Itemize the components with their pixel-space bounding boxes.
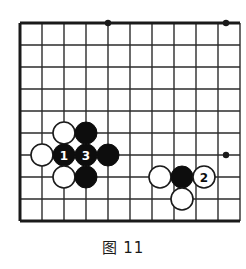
white-stone-5 [171, 188, 193, 210]
black-stone-4 [171, 166, 193, 188]
white-move-2: 2 [193, 166, 215, 188]
white-stone-disc [53, 166, 75, 188]
black-stone-2 [97, 144, 119, 166]
white-stone-disc [53, 122, 75, 144]
black-stone-3 [75, 166, 97, 188]
black-stone-1 [75, 122, 97, 144]
star-point-right-icon [223, 152, 229, 158]
star-point-top-right-icon [223, 20, 229, 26]
board-background [0, 0, 246, 269]
stone-move-number: 3 [82, 149, 90, 163]
black-move-3: 3 [75, 144, 97, 166]
white-stone-2 [31, 144, 53, 166]
stone-move-number: 2 [200, 171, 208, 185]
white-stone-disc [171, 188, 193, 210]
go-diagram-figure: 132 图 11 [0, 0, 246, 269]
white-stone-3 [53, 166, 75, 188]
white-stone-disc [31, 144, 53, 166]
black-stone-disc [75, 166, 97, 188]
stone-move-number: 1 [60, 149, 68, 163]
black-stone-disc [75, 122, 97, 144]
black-stone-disc [97, 144, 119, 166]
white-stone-4 [149, 166, 171, 188]
white-stone-1 [53, 122, 75, 144]
figure-caption: 图 11 [0, 236, 246, 257]
white-stone-disc [149, 166, 171, 188]
black-stone-disc [171, 166, 193, 188]
black-move-1: 1 [53, 144, 75, 166]
go-board: 132 [0, 0, 246, 269]
star-point-top-icon [105, 20, 111, 26]
